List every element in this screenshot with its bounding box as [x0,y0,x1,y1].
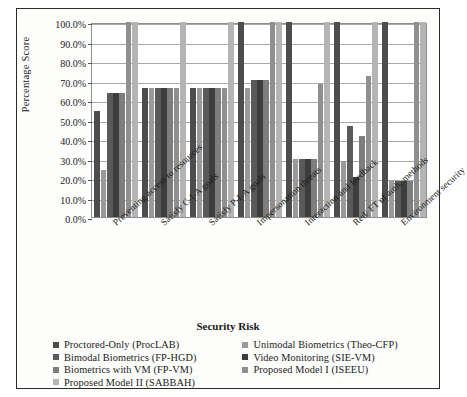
legend-item: Proposed Model II (SABBAH) [53,377,226,388]
y-axis-tick-label: 30.0% [34,155,86,166]
bar [209,88,215,217]
chart-legend: Proctored-Only (ProcLAB)Bimodal Biometri… [53,339,413,388]
y-axis-tick-label: 70.0% [34,77,86,88]
bar [174,88,180,217]
bar [222,88,228,217]
bar [414,22,420,217]
bar [324,22,330,217]
y-axis-tick-label: 100.0% [34,19,86,30]
legend-item: Unimodal Biometrics (Theo-CFP) [242,339,413,350]
y-axis-title: Percentage Score [20,15,31,135]
bar [101,170,107,217]
legend-label: Biometrics with VM (FP-VM) [64,364,193,375]
bar [126,22,132,217]
bar [318,84,324,217]
bar [276,22,282,217]
bar [113,93,119,217]
y-axis-tick-label: 10.0% [34,194,86,205]
legend-swatch-icon [53,367,59,373]
y-axis-tick-label: 0.0% [34,214,86,225]
y-axis-tick-label: 20.0% [34,175,86,186]
y-axis-tick-label: 90.0% [34,38,86,49]
bar [119,93,125,217]
legend-label: Unimodal Biometrics (Theo-CFP) [253,339,397,350]
bar-group [92,24,140,217]
x-axis-category-labels: Preventing access to resourcesSatisfy C-… [91,218,427,318]
bar [155,88,161,217]
legend-swatch-icon [242,342,248,348]
legend-swatch-icon [53,379,59,385]
bar [228,22,234,217]
y-axis-tick-label: 60.0% [34,97,86,108]
bar [132,22,138,217]
legend-item: Biometrics with VM (FP-VM) [53,364,226,375]
bar [251,80,257,217]
bar [167,88,173,217]
legend-label: Proposed Model II (SABBAH) [64,377,195,388]
bar [215,88,221,217]
bar [372,22,378,217]
legend-swatch-icon [53,354,59,360]
bar [107,93,113,217]
bar [203,88,209,217]
legend-item: Proposed Model I (ISEEU) [242,364,413,375]
legend-item: Video Monitoring (SIE-VM) [242,352,413,363]
legend-item: Bimodal Biometrics (FP-HGD) [53,352,226,363]
legend-label: Video Monitoring (SIE-VM) [253,352,374,363]
bar [366,76,372,217]
x-axis-title: Security Risk [17,320,439,332]
bar [420,22,426,217]
plot-area: 100.0%90.0%80.0%70.0%60.0%50.0%40.0%30.0… [91,23,427,218]
bar [161,88,167,217]
legend-column-left: Proctored-Only (ProcLAB)Bimodal Biometri… [53,339,226,388]
y-axis-tick-label: 40.0% [34,136,86,147]
legend-swatch-icon [242,367,248,373]
bar [94,111,100,217]
bar [270,22,276,217]
y-axis-tick-label: 80.0% [34,58,86,69]
legend-swatch-icon [53,342,59,348]
legend-item: Proctored-Only (ProcLAB) [53,339,226,350]
legend-column-right: Unimodal Biometrics (Theo-CFP)Video Moni… [242,339,413,388]
legend-label: Proposed Model I (ISEEU) [253,364,368,375]
figure-frame: Percentage Score 100.0%90.0%80.0%70.0%60… [16,8,440,389]
y-axis-tick-label: 50.0% [34,116,86,127]
legend-label: Bimodal Biometrics (FP-HGD) [64,352,197,363]
bar [257,80,263,217]
bar [180,22,186,217]
bar [347,126,353,217]
bar [305,159,311,217]
legend-label: Proctored-Only (ProcLAB) [64,339,179,350]
legend-swatch-icon [242,354,248,360]
bar [263,80,269,217]
